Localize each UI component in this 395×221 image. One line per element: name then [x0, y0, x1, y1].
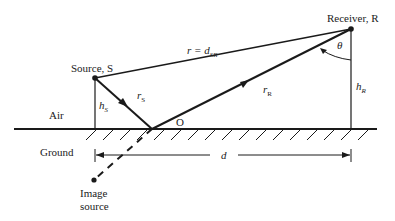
distance-label: d [221, 149, 227, 161]
receiver-label: Receiver, R [327, 12, 379, 24]
rs-label: rS [137, 89, 145, 104]
reflected-ray-rr [152, 29, 351, 129]
theta-arc-arrowhead [320, 48, 327, 54]
distance-arrowhead-right [342, 152, 350, 158]
image-source-label-line1: Image [80, 187, 108, 199]
reflection-point-label: O [176, 116, 184, 128]
reflected-ray-arrowhead [240, 80, 249, 88]
ground-hatching [86, 130, 368, 140]
hs-label: hS [99, 99, 109, 114]
theta-angle-arc [322, 50, 351, 60]
ground-label: Ground [40, 146, 74, 158]
ground-reflection-diagram: Source, S Receiver, R r = dSR rS rR hS h… [0, 0, 395, 221]
direct-path-line [95, 29, 351, 78]
image-source-label-line2: source [80, 200, 109, 212]
distance-arrowhead-left [96, 152, 104, 158]
air-label: Air [49, 109, 64, 121]
receiver-point [348, 26, 354, 32]
hr-label: hR [356, 80, 367, 95]
source-point [92, 75, 98, 81]
theta-label: θ [337, 39, 343, 51]
image-source-point [91, 177, 96, 182]
source-label: Source, S [71, 62, 113, 74]
rr-label: rR [263, 83, 272, 98]
